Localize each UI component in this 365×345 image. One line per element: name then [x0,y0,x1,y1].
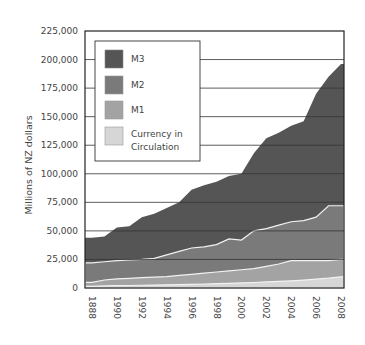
money-supply-area-chart: 025,00050,00075,000100,000125,000150,000… [0,0,365,345]
x-tick-label: 1992 [137,296,147,319]
x-tick-label: 2004 [286,296,296,319]
legend-swatch-m1 [105,101,123,119]
legend-label-m3: M3 [131,54,145,64]
x-tick-label: 1998 [212,296,222,319]
x-tick-label: 1990 [112,296,122,319]
y-tick-label: 50,000 [47,226,79,236]
x-tick-label: 1996 [187,296,197,319]
legend-swatch-currency [105,127,123,145]
legend-swatch-m3 [105,50,123,68]
y-axis-label: Millions of NZ dollars [23,115,34,214]
x-tick-label: 2008 [336,296,346,319]
legend-label-m1: M1 [131,105,145,115]
x-tick-label: 1888 [87,296,97,319]
legend: M3 M2 M1 Currency in Circulation [95,41,200,161]
y-tick-label: 175,000 [41,83,78,93]
x-axis-ticks: 1888199019921994199619982000200220042006… [87,296,346,319]
x-tick-label: 1994 [162,296,172,319]
y-tick-label: 125,000 [41,140,78,150]
x-tick-label: 2000 [236,296,246,319]
y-tick-label: 225,000 [41,26,78,36]
y-tick-label: 200,000 [41,55,78,65]
legend-label-currency-line2: Circulation [131,142,179,152]
y-tick-label: 75,000 [47,197,79,207]
x-tick-label: 2002 [261,296,271,319]
y-tick-label: 150,000 [41,112,78,122]
y-tick-label: 25,000 [47,254,79,264]
legend-label-currency-line1: Currency in [131,129,183,139]
y-axis-ticks: 025,00050,00075,000100,000125,000150,000… [41,26,78,293]
legend-label-m2: M2 [131,80,145,90]
y-tick-label: 0 [72,283,78,293]
legend-swatch-m2 [105,76,123,94]
x-tick-label: 2006 [311,296,321,319]
y-tick-label: 100,000 [41,169,78,179]
